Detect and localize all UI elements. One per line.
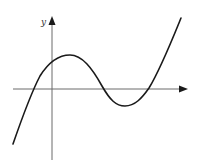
cubic-function-graph: y (0, 0, 200, 165)
y-axis-arrow-icon (49, 16, 56, 25)
x-axis-arrow-icon (179, 86, 188, 93)
y-axis-label: y (40, 17, 47, 27)
cubic-curve (13, 18, 181, 144)
